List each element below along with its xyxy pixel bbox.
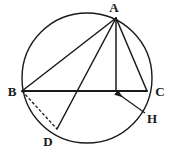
label-D: D [43,134,52,149]
circumcircle [22,13,152,143]
label-A: A [109,0,119,15]
segment-AD [57,18,116,129]
segment-AB [22,18,116,91]
label-H: H [147,111,157,126]
geometry-figure-container: A B C D H [0,0,171,150]
geometry-diagram: A B C D H [0,0,171,150]
label-C: C [155,84,164,99]
label-B: B [8,84,17,99]
h-leader-line [117,93,145,113]
segment-AC [116,18,147,91]
